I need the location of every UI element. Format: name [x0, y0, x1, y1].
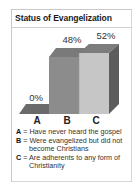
value-label-b: 48% — [60, 34, 84, 45]
value-label-a: 0% — [24, 92, 48, 103]
value-label-c: 52% — [94, 30, 118, 41]
category-label-a: A — [27, 115, 47, 126]
bar-b-front — [49, 57, 79, 114]
category-label-c: C — [86, 115, 106, 126]
legend: A = Have never heard the gospel B = Were… — [16, 128, 122, 171]
category-label-b: B — [57, 115, 77, 126]
bar-c-side — [109, 44, 119, 114]
legend-item-b: B = Were evangelized but did notbecome C… — [16, 136, 122, 154]
bar-c-front — [79, 53, 109, 114]
legend-item-c: C = Are adherents to any form ofChristia… — [16, 153, 122, 171]
